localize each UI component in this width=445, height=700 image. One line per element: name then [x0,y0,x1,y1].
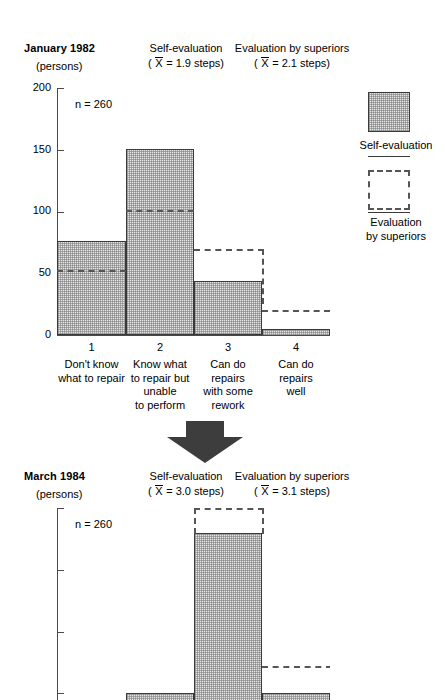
down-arrow-icon [167,421,243,463]
chart2-header-self-evaluation-label: Self-evaluation [136,470,236,482]
chart1-ylabel-0: 0 [21,328,51,340]
chart1-dash-superiors-4 [262,310,330,312]
chart1-xcat-4-line1: Can do [247,358,345,372]
chart1-bar-self-evaluation-1 [57,241,126,335]
chart2-header-self-evaluation: Self-evaluation ( X = 3.0 steps) [136,470,236,498]
chart1-x-axis [57,335,330,336]
chart2-dash-superiors-3 [194,508,264,510]
chart1-xtick-1: 1 [62,341,122,353]
chart2-y-axis [57,508,58,700]
chart1-ylabel-100: 100 [21,204,51,216]
chart1-xtick-3: 3 [198,341,258,353]
chart2-header-evaluation-by-superiors: Evaluation by superiors ( X = 3.1 steps) [222,470,362,498]
chart2-ytick-200 [57,508,64,509]
legend-swatch-self-evaluation [368,92,410,132]
chart1-ylabel-200: 200 [21,81,51,93]
x-bar-symbol: X [155,485,163,498]
legend-label-self-evaluation: Self-evaluation [346,139,445,153]
chart1-bar-self-evaluation-2 [126,149,194,335]
chart1-xtick-4: 4 [266,341,326,353]
chart1-title: January 1982 [24,42,95,54]
chart1-ytick-100 [57,212,64,213]
chart1-ylabel-150: 150 [21,143,51,155]
chart2-dash-superiors-3-left-edge [194,508,196,534]
x-bar-symbol: X [155,57,163,70]
legend-label-evaluation-by-superiors-line1: Evaluation [346,216,445,230]
chart1-header-self-evaluation-mean: ( X = 1.9 steps) [136,57,236,70]
chart1-sample-size-label: n = 260 [75,98,112,110]
chart2-sample-size-label: n = 260 [75,518,112,530]
chart2-dash-superiors-3-right-edge [262,508,264,534]
chart2-title: March 1984 [24,470,85,482]
chart-legend: Self-evaluation Evaluation by superiors [355,92,445,242]
chart1-xtick-2: 2 [130,341,190,353]
chart1-xcat-4-line2: repairs [247,372,345,386]
chart1-xcat-3-line4: rework [179,399,277,413]
chart1-ytick-200 [57,88,64,89]
chart1-plot-area: 200 150 100 50 0 n = 260 1 2 3 4 Don't k… [57,88,330,335]
chart1-header-self-evaluation-label: Self-evaluation [136,42,236,54]
chart1-header-evaluation-by-superiors: Evaluation by superiors ( X = 2.1 steps) [222,42,362,70]
legend-rule-evaluation-by-superiors [368,212,410,213]
x-bar-symbol: X [261,57,269,70]
chart1-xcat-4: Can do repairs well [247,358,345,399]
chart2-ytick-50 [57,693,64,694]
chart2-bar-self-evaluation-3 [194,533,262,700]
legend-rule-self-evaluation [368,156,410,157]
chart2-header-evaluation-by-superiors-mean: ( X = 3.1 steps) [222,485,362,498]
chart1-xcat-4-line3: well [247,385,345,399]
chart1-ytick-150 [57,150,64,151]
chart2-ytick-150 [57,570,64,571]
chart1-header-evaluation-by-superiors-mean: ( X = 2.1 steps) [222,57,362,70]
legend-label-evaluation-by-superiors-line2: by superiors [346,230,445,244]
chart1-bar-self-evaluation-4 [262,329,330,335]
chart2-bar-self-evaluation-4 [262,693,330,700]
chart1-dash-superiors-2 [126,210,194,212]
x-bar-symbol: X [261,485,269,498]
down-arrow-head [167,437,243,463]
chart1-bar-self-evaluation-3 [194,281,262,335]
chart1-header-self-evaluation: Self-evaluation ( X = 1.9 steps) [136,42,236,70]
chart2-header-self-evaluation-mean: ( X = 3.0 steps) [136,485,236,498]
chart1-ylabel-50: 50 [21,266,51,278]
down-arrow-shaft [186,421,224,438]
chart2-bar-self-evaluation-2 [126,693,194,700]
chart2-plot-area: 200 150 100 50 n = 260 [57,508,330,700]
chart1-header-evaluation-by-superiors-label: Evaluation by superiors [222,42,362,54]
chart1-dash-superiors-3-right-edge [262,249,264,304]
legend-label-evaluation-by-superiors: Evaluation by superiors [346,216,445,243]
chart2-dash-superiors-4 [262,666,330,668]
chart2-ytick-100 [57,632,64,633]
chart1-units-label: (persons) [36,60,82,72]
chart1-dash-superiors-1 [57,270,126,272]
chart1-dash-superiors-3 [194,249,264,251]
legend-swatch-evaluation-by-superiors [368,170,410,210]
chart2-units-label: (persons) [36,488,82,500]
chart2-header-evaluation-by-superiors-label: Evaluation by superiors [222,470,362,482]
